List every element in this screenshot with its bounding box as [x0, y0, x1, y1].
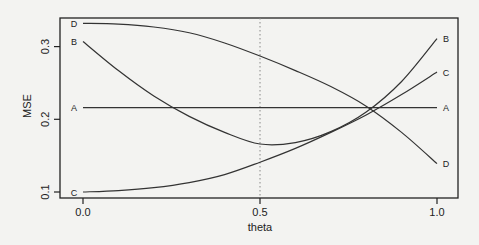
y-axis: 0.10.20.3 [39, 39, 60, 200]
curve-label-end: B [443, 34, 449, 44]
mse-vs-theta-chart: 0.00.51.0 0.10.20.3 AABBCCDD theta MSE [0, 0, 479, 245]
y-axis-label: MSE [21, 94, 33, 118]
x-tick-label: 0.0 [75, 206, 90, 218]
y-tick-label: 0.2 [39, 112, 51, 127]
x-tick-label: 1.0 [429, 206, 444, 218]
curve-label-start: D [71, 19, 78, 29]
x-tick-label: 0.5 [252, 206, 267, 218]
x-axis-label: theta [248, 221, 273, 233]
curve-label-start: B [71, 37, 77, 47]
y-tick-label: 0.3 [39, 39, 51, 54]
y-tick-label: 0.1 [39, 184, 51, 199]
curve-label-end: C [443, 68, 450, 78]
curve-label-end: D [443, 159, 450, 169]
curve-label-end: A [443, 103, 449, 113]
x-axis: 0.00.51.0 [75, 198, 444, 218]
curve-label-start: C [71, 188, 78, 198]
curve-label-start: A [71, 103, 77, 113]
